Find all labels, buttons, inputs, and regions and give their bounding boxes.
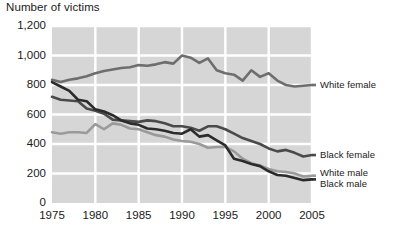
y-tick-label: 1,200 (0, 19, 46, 31)
x-tick-label: 1980 (73, 209, 117, 221)
legend-label-white-female: White female (320, 79, 376, 90)
y-tick-label: 1,000 (0, 49, 46, 61)
y-tick-label: 800 (0, 78, 46, 90)
legend-label-white-male: White male (320, 167, 368, 178)
y-tick-label: 600 (0, 108, 46, 120)
chart-container: Number of victims 02004006008001,0001,20… (0, 0, 394, 235)
legend-label-black-female: Black female (320, 149, 375, 160)
chart-title: Number of victims (6, 1, 100, 13)
y-tick-label: 200 (0, 167, 46, 179)
legend-label-black-male: Black male (320, 178, 367, 189)
x-tick-label: 1985 (117, 209, 161, 221)
x-tick-label: 2000 (247, 209, 291, 221)
x-tick-label: 2005 (290, 209, 334, 221)
y-tick-label: 400 (0, 137, 46, 149)
y-tick-label: 0 (0, 196, 46, 208)
x-tick-label: 1990 (160, 209, 204, 221)
line-chart-plot (0, 0, 394, 235)
x-tick-label: 1995 (203, 209, 247, 221)
x-tick-label: 1975 (30, 209, 74, 221)
